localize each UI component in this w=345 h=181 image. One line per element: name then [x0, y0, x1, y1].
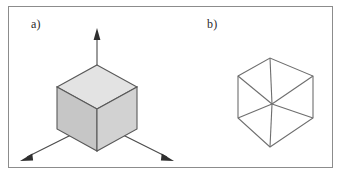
hexagon-spoke-top: [270, 58, 272, 104]
hexagon-outline: [238, 58, 313, 147]
panel-label-a: a): [31, 18, 41, 30]
figure-root: a) b): [0, 0, 345, 181]
right-axis-arrowhead-icon: [161, 153, 174, 161]
hexagon-spoke-lower-right: [272, 104, 313, 118]
vertical-axis-arrowhead-icon: [94, 28, 101, 40]
hexagon-spoke-upper-left: [238, 76, 272, 104]
hexagon-spoke-bottom: [270, 104, 272, 147]
hexagon-spoke-upper-right: [272, 76, 313, 104]
panel-b-hexagon-diagram: [215, 50, 325, 155]
hexagon-spoke-lower-left: [238, 104, 272, 118]
panel-label-b: b): [207, 18, 217, 30]
left-axis-arrowhead-icon: [20, 153, 33, 161]
